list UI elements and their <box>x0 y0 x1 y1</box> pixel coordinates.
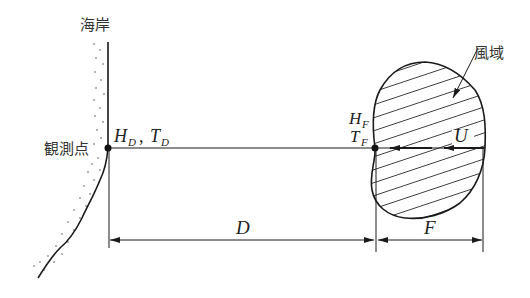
svg-text:D: D <box>127 136 136 148</box>
observation-point-label: 観測点 <box>44 140 89 158</box>
svg-text:F: F <box>360 136 368 148</box>
wind-speed-label: U <box>454 125 469 146</box>
diagram-canvas: 海岸 観測点 風域 H D , T D H F T F U D F <box>0 0 530 298</box>
fetch-F-label: F <box>423 217 436 238</box>
svg-text:H: H <box>113 126 128 146</box>
svg-text:,: , <box>139 126 144 146</box>
coastline <box>38 42 108 278</box>
distance-D-label: D <box>235 217 250 238</box>
observation-point-marker <box>105 145 112 152</box>
fetch-end-marker <box>372 145 379 152</box>
svg-text:H: H <box>348 109 363 128</box>
svg-text:T: T <box>350 127 361 146</box>
fetch-wave-label: H F T F <box>348 109 369 148</box>
observed-wave-label: H D , T D <box>113 126 169 148</box>
wind-area-label: 風域 <box>474 44 504 62</box>
svg-text:F: F <box>361 118 369 130</box>
coast-label: 海岸 <box>80 16 110 34</box>
svg-text:D: D <box>160 136 169 148</box>
